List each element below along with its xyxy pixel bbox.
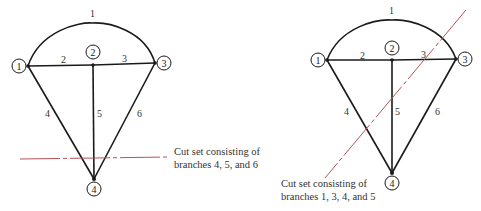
junction-dot (390, 171, 394, 175)
node-3: 3 (458, 52, 472, 66)
junction-dot (390, 58, 394, 62)
svg-text:2: 2 (91, 47, 96, 58)
branch-6 (392, 59, 456, 173)
branch-label-2: 2 (61, 54, 66, 65)
caption-line-1: Cut set consisting of (281, 177, 375, 190)
right-graph: 1 2 3 4 1 2 3 4 5 6 (311, 5, 472, 190)
node-2: 2 (86, 45, 100, 59)
branch-1-arc (28, 23, 155, 66)
branch-label-3: 3 (421, 49, 426, 60)
node-1: 1 (12, 59, 26, 73)
junction-dot (91, 63, 95, 67)
branch-label-6: 6 (137, 108, 142, 119)
cut-set-diagrams: 1 2 3 4 1 2 3 4 5 6 1 2 3 4 1 2 3 4 5 6 (0, 0, 481, 211)
node-1: 1 (311, 53, 325, 67)
caption-line-2: branches 4, 5, and 6 (174, 158, 260, 171)
branch-label-1: 1 (90, 8, 95, 19)
left-graph: 1 2 3 4 1 2 3 4 5 6 (12, 8, 171, 196)
node-4: 4 (385, 176, 399, 190)
branch-4 (28, 66, 94, 179)
branch-2 (28, 65, 93, 66)
svg-text:1: 1 (17, 61, 22, 72)
svg-text:3: 3 (162, 58, 167, 69)
junction-dot (153, 61, 157, 65)
branch-label-6: 6 (435, 106, 440, 117)
svg-text:4: 4 (390, 178, 395, 189)
branch-label-4: 4 (45, 108, 50, 119)
branch-label-3: 3 (122, 53, 127, 64)
branch-label-4: 4 (344, 106, 349, 117)
svg-text:1: 1 (316, 55, 321, 66)
branch-5 (93, 65, 94, 179)
branch-label-1: 1 (389, 5, 394, 16)
branch-4 (327, 60, 392, 173)
svg-text:4: 4 (92, 184, 97, 195)
junction-dot (92, 177, 96, 181)
caption-line-1: Cut set consisting of (174, 145, 260, 158)
node-4: 4 (87, 182, 101, 196)
caption-line-2: branches 1, 3, 4, and 5 (281, 190, 375, 203)
branch-label-5: 5 (395, 106, 400, 117)
caption-right: Cut set consisting of branches 1, 3, 4, … (281, 177, 375, 203)
svg-text:3: 3 (463, 54, 468, 65)
junction-dot (26, 64, 30, 68)
node-2: 2 (385, 41, 399, 55)
branch-label-5: 5 (97, 108, 102, 119)
branch-label-2: 2 (360, 50, 365, 61)
node-3: 3 (157, 56, 171, 70)
branch-6 (94, 63, 155, 179)
junction-dot (454, 57, 458, 61)
caption-left: Cut set consisting of branches 4, 5, and… (174, 145, 260, 171)
svg-text:2: 2 (390, 43, 395, 54)
junction-dot (325, 58, 329, 62)
